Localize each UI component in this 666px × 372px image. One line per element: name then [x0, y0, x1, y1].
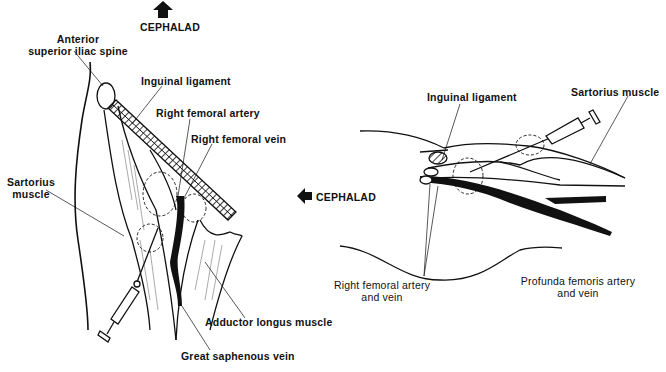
- left-sartorius-label-line1: Sartorius: [4, 176, 58, 188]
- right-femoral-artery-label: Right femoral artery: [156, 107, 260, 119]
- profunda-femoris-line1: Profunda femoris artery: [512, 275, 644, 287]
- asis-label: Anterior superior iliac spine: [18, 33, 138, 57]
- great-saphenous-vein-label: Great saphenous vein: [181, 350, 295, 362]
- left-inguinal-ligament-label: Inguinal ligament: [141, 75, 231, 87]
- right-inguinal-ligament-label: Inguinal ligament: [427, 91, 517, 103]
- right-femoral-vein-label: Right femoral vein: [191, 133, 286, 145]
- right-cephalad-label: CEPHALAD: [316, 191, 376, 203]
- adductor-longus-label: Adductor longus muscle: [205, 316, 333, 328]
- left-sartorius-label: Sartorius muscle: [4, 176, 58, 200]
- femoral-artery-vein-line2: and vein: [322, 291, 442, 303]
- asis-label-line1: Anterior: [18, 33, 138, 45]
- up-arrow-icon: [153, 1, 173, 18]
- left-cephalad-label: CEPHALAD: [140, 21, 200, 33]
- left-arrow-icon: [297, 188, 312, 204]
- profunda-femoris-line2: and vein: [512, 287, 644, 299]
- right-panel-illustration: [297, 96, 628, 280]
- asis-label-line2: superior iliac spine: [18, 45, 138, 57]
- left-sartorius-label-line2: muscle: [4, 188, 58, 200]
- femoral-artery-vein-label: Right femoral artery and vein: [322, 279, 442, 303]
- femoral-artery-vein-line1: Right femoral artery: [322, 279, 442, 291]
- syringe-icon: [470, 110, 600, 172]
- profunda-femoris-label: Profunda femoris artery and vein: [512, 275, 644, 299]
- right-sartorius-label: Sartorius muscle: [571, 86, 659, 98]
